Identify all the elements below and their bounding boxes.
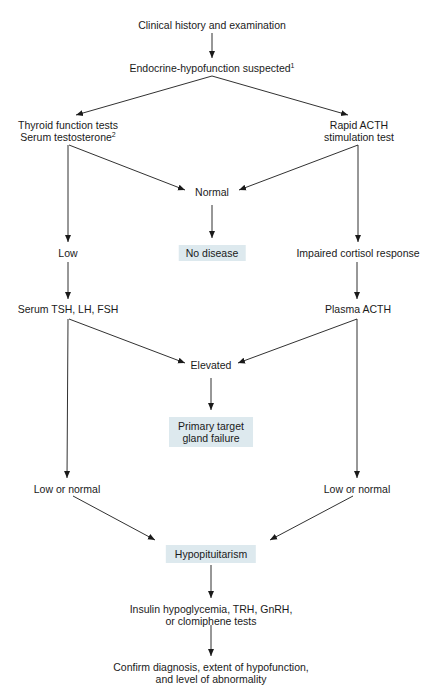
node-text: Insulin hypoglycemia, TRH, GnRH, <box>130 603 293 615</box>
node-endocrine-suspected: Endocrine-hypofunction suspected1 <box>129 62 294 74</box>
node-text: Serum TSH, LH, FSH <box>18 303 119 315</box>
node-text: Low or normal <box>34 483 101 495</box>
node-text: Rapid ACTH <box>324 119 394 131</box>
node-text: or clomiphene tests <box>130 615 293 627</box>
footnote-marker: 2 <box>112 131 116 138</box>
node-text: Thyroid function tests <box>18 119 118 131</box>
node-text: Endocrine-hypofunction suspected <box>129 62 290 74</box>
node-low-or-normal-left: Low or normal <box>34 483 101 495</box>
node-text: No disease <box>186 247 239 259</box>
node-text: Low or normal <box>324 483 391 495</box>
node-text: Impaired cortisol response <box>296 247 419 259</box>
node-text: and level of abnormality <box>113 673 309 685</box>
node-confirm-diagnosis: Confirm diagnosis, extent of hypofunctio… <box>113 661 309 685</box>
node-text: Low <box>58 247 77 259</box>
node-text: Plasma ACTH <box>325 303 391 315</box>
node-rapid-acth: Rapid ACTH stimulation test <box>324 119 394 143</box>
node-normal: Normal <box>195 186 229 198</box>
node-thyroid-tests: Thyroid function tests Serum testosteron… <box>18 119 118 143</box>
node-impaired-cortisol: Impaired cortisol response <box>296 247 419 259</box>
node-text: Confirm diagnosis, extent of hypofunctio… <box>113 661 309 673</box>
node-text: gland failure <box>178 432 244 444</box>
node-hypopituitarism: Hypopituitarism <box>166 545 256 563</box>
node-text: Hypopituitarism <box>175 548 247 560</box>
node-text: Clinical history and examination <box>138 19 286 31</box>
node-primary-target-gland-failure: Primary target gland failure <box>169 417 253 447</box>
flowchart-arrows <box>0 0 437 693</box>
node-plasma-acth: Plasma ACTH <box>325 303 391 315</box>
node-clinical-history: Clinical history and examination <box>138 19 286 31</box>
node-elevated: Elevated <box>191 359 232 371</box>
footnote-marker: 1 <box>291 62 295 69</box>
node-text: Normal <box>195 186 229 198</box>
node-serum-tsh: Serum TSH, LH, FSH <box>18 303 119 315</box>
node-text: Primary target <box>178 420 244 432</box>
node-text: Serum testosterone <box>20 131 112 143</box>
node-low: Low <box>58 247 77 259</box>
node-low-or-normal-right: Low or normal <box>324 483 391 495</box>
node-no-disease: No disease <box>179 245 246 261</box>
node-text: stimulation test <box>324 131 394 143</box>
node-stimulation-tests: Insulin hypoglycemia, TRH, GnRH, or clom… <box>130 603 293 627</box>
node-text: Elevated <box>191 359 232 371</box>
